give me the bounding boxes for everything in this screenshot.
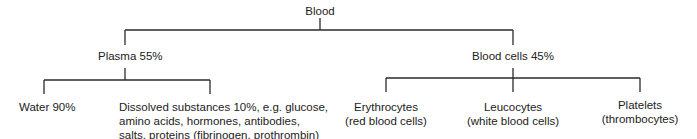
node-erythrocytes-line-2: (red blood cells) <box>345 114 427 128</box>
node-dissolved-line-1: Dissolved substances 10%, e.g. glucose, <box>119 100 328 114</box>
node-platelets-line-2: (thrombocytes) <box>602 112 679 126</box>
node-plasma: Plasma 55% <box>98 49 163 63</box>
node-dissolved-line-2: amino acids, hormones, antibodies, <box>119 114 328 128</box>
node-erythrocytes-line-1: Erythrocytes <box>345 100 427 114</box>
node-leucocytes-line-1: Leucocytes <box>467 100 559 114</box>
node-leucocytes: Leucocytes (white blood cells) <box>467 100 559 128</box>
node-blood-cells: Blood cells 45% <box>472 49 554 63</box>
node-platelets: Platelets (thrombocytes) <box>602 98 679 126</box>
node-dissolved-line-3: salts, proteins (fibrinogen, prothrombin… <box>119 128 328 139</box>
node-platelets-line-1: Platelets <box>602 98 679 112</box>
node-erythrocytes: Erythrocytes (red blood cells) <box>345 100 427 128</box>
node-dissolved-substances: Dissolved substances 10%, e.g. glucose, … <box>119 100 328 139</box>
node-water: Water 90% <box>19 100 75 114</box>
node-leucocytes-line-2: (white blood cells) <box>467 114 559 128</box>
node-water-line: Water 90% <box>19 100 75 114</box>
root-node-blood: Blood <box>305 4 334 18</box>
